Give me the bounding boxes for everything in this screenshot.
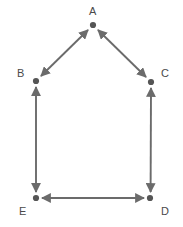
node-label-c: C (161, 68, 169, 79)
nodes-layer (33, 22, 154, 201)
edge-a-c (98, 30, 146, 77)
node-label-a: A (89, 6, 97, 17)
node-label-b: B (17, 68, 25, 79)
graph-canvas (0, 0, 183, 227)
graph-diagram: A B C D E (0, 0, 183, 227)
node-d (147, 195, 153, 201)
node-c (148, 79, 154, 85)
edges-layer (36, 30, 151, 198)
node-b (33, 78, 39, 84)
node-a (90, 22, 96, 28)
edge-a-b (41, 30, 88, 76)
node-label-d: D (161, 206, 169, 217)
node-label-e: E (19, 206, 27, 217)
node-e (33, 195, 39, 201)
